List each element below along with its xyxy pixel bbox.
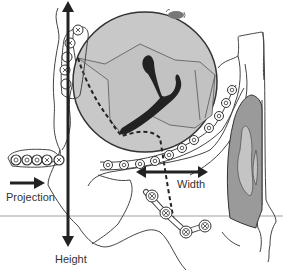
- lower-tissue-inner: [92, 175, 132, 244]
- diagram-canvas: [0, 0, 283, 274]
- lower-right-line: [222, 232, 240, 246]
- left-tissue-outline: [40, 8, 60, 162]
- projection-label: Projection: [6, 192, 55, 203]
- right-tissue-top: [218, 32, 264, 80]
- top-blob: [168, 11, 184, 19]
- width-arrow: [136, 166, 208, 178]
- bone-outline: [263, 32, 276, 262]
- projection-node-chain: [8, 149, 64, 167]
- height-label: Height: [55, 254, 87, 265]
- projection-arrow: [10, 177, 45, 189]
- width-label: Width: [177, 179, 205, 190]
